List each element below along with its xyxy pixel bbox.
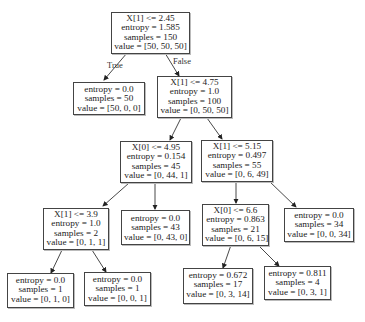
edge-n5-n9 (51, 250, 62, 273)
node-value: value = [0, 43, 0] (124, 233, 187, 242)
node-value: value = [50, 0, 0] (76, 104, 142, 113)
node-value: value = [0, 6, 49] (204, 170, 270, 179)
tree-node-split: X[1] <= 4.75 entropy = 1.0 samples = 100… (157, 76, 232, 118)
edge-n4-n8 (269, 181, 296, 207)
edge-label-true: True (107, 60, 123, 70)
edge-n3-n5 (103, 183, 129, 206)
edge-n2-n4 (207, 118, 222, 139)
tree-node-leaf: entropy = 0.0 samples = 43 value = [0, 4… (121, 210, 190, 245)
tree-node-leaf: entropy = 0.0 samples = 50 value = [50, … (73, 82, 145, 115)
tree-node-split: X[1] <= 3.9 entropy = 1.0 samples = 2 va… (43, 208, 109, 250)
decision-tree-canvas: True False X[1] <= 2.45 entropy = 1.585 … (0, 0, 365, 322)
node-value: value = [0, 44, 1] (123, 171, 189, 180)
tree-node-leaf: entropy = 0.0 samples = 1 value = [0, 1,… (7, 273, 74, 308)
edge-n7-n11 (223, 245, 231, 268)
node-value: value = [0, 3, 1] (267, 288, 328, 297)
node-value: value = [0, 1, 1] (46, 238, 106, 247)
tree-node-split: X[0] <= 4.95 entropy = 0.154 samples = 4… (120, 141, 192, 183)
node-value: value = [0, 1, 0] (10, 295, 71, 304)
node-value: value = [0, 50, 50] (160, 106, 229, 115)
edge-n2-n3 (170, 118, 181, 140)
tree-node-leaf: entropy = 0.811 samples = 4 value = [0, … (264, 266, 331, 300)
edge-label-false: False (173, 56, 191, 66)
node-value: value = [0, 6, 15] (205, 234, 266, 243)
node-value: value = [0, 0, 1] (87, 294, 148, 303)
edge-n7-n12 (258, 245, 279, 266)
edge-n5-n10 (92, 250, 106, 272)
node-value: value = [0, 3, 14] (186, 290, 250, 299)
tree-node-leaf: entropy = 0.0 samples = 34 value = [0, 0… (284, 208, 354, 242)
tree-node-split: X[0] <= 6.6 entropy = 0.863 samples = 21… (202, 204, 269, 246)
node-value: value = [50, 50, 50] (114, 42, 187, 51)
tree-node-split: X[1] <= 5.15 entropy = 0.497 samples = 5… (201, 140, 273, 182)
tree-node-root: X[1] <= 2.45 entropy = 1.585 samples = 1… (111, 12, 190, 54)
tree-node-leaf: entropy = 0.672 samples = 17 value = [0,… (183, 268, 253, 304)
tree-node-leaf: entropy = 0.0 samples = 1 value = [0, 0,… (84, 272, 151, 306)
node-value: value = [0, 0, 34] (287, 230, 351, 239)
